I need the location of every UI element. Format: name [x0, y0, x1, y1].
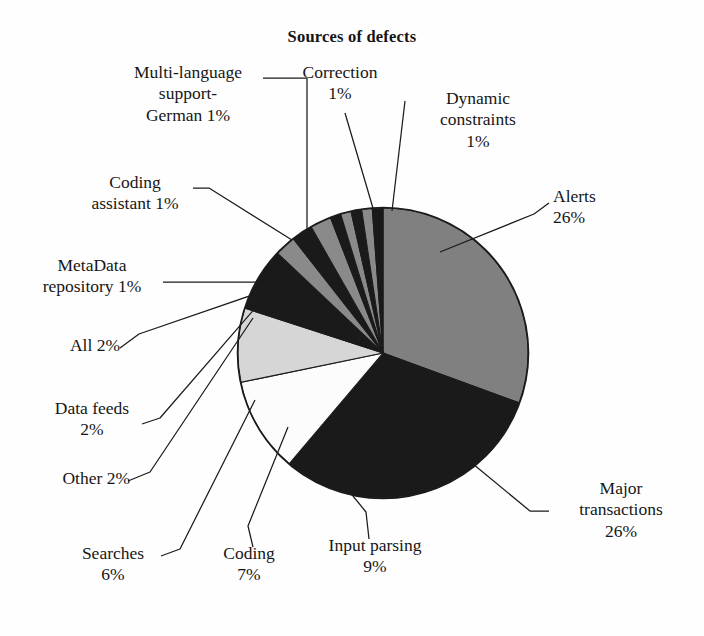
leader-line-searches [161, 400, 255, 556]
label-coding-assistant: Coding assistant 1% [72, 172, 198, 215]
label-metadata-repository: MetaData repository 1% [18, 255, 166, 298]
leader-line-other [128, 318, 253, 481]
leader-line-correction [345, 113, 375, 215]
label-searches: Searches 6% [58, 543, 168, 586]
label-other: Other 2% [18, 468, 130, 489]
label-correction: Correction 1% [275, 62, 405, 105]
pie-slice-group [238, 208, 528, 498]
label-multi-language-support-german: Multi-language support- German 1% [100, 62, 276, 126]
label-dynamic-constraints: Dynamic constraints 1% [400, 88, 556, 152]
label-alerts: Alerts 26% [553, 186, 693, 229]
leader-line-major-transactions [473, 464, 549, 511]
label-all: All 2% [20, 335, 120, 356]
chart-canvas: Sources of defects Multi-language suppor… [0, 0, 704, 636]
label-coding: Coding 7% [197, 543, 301, 586]
label-input-parsing: Input parsing 9% [305, 535, 445, 578]
label-major-transactions: Major transactions 26% [547, 478, 695, 542]
leader-line-coding-assistant [193, 188, 292, 240]
label-data-feeds: Data feeds 2% [38, 398, 146, 441]
